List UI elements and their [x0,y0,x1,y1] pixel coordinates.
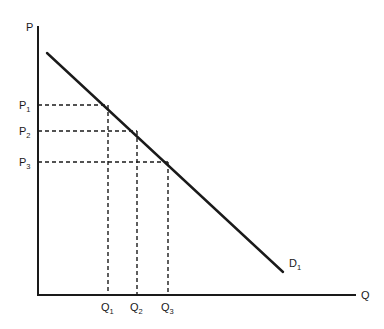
demand-curve-figure: P Q P1 P2 P3 Q1 Q2 Q3 D1 [0,0,384,329]
price-tick-subscript-p2: 2 [26,131,30,140]
demand-curve-label-subscript: 1 [297,263,301,272]
x-axis-label: Q [361,289,370,301]
price-tick-subscript-p1: 1 [26,105,30,114]
price-tick-label-p2: P2 [19,125,31,140]
quantity-tick-label-q3: Q3 [161,301,174,316]
demand-curve-label: D1 [289,257,301,272]
quantity-tick-label-q2: Q2 [130,301,143,316]
quantity-tick-subscript-q2: 2 [139,307,143,316]
price-tick-label-p1: P1 [19,99,31,114]
quantity-tick-label-q1: Q1 [101,301,114,316]
quantity-tick-subscript-q3: 3 [170,307,174,316]
quantity-tick-subscript-q1: 1 [110,307,114,316]
price-tick-label-p3: P3 [19,156,31,171]
y-axis-label: P [26,21,33,33]
price-tick-subscript-p3: 3 [26,162,30,171]
